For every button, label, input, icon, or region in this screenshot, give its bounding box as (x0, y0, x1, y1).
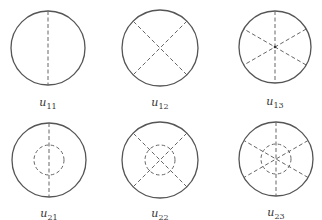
nodal-diameter (244, 141, 308, 178)
nodal-diameter (133, 133, 187, 187)
mode-label-u13: u13 (266, 95, 283, 110)
label-subscript: 13 (273, 101, 283, 110)
mode-label-u21: u21 (40, 207, 57, 220)
mode-u13 (239, 11, 311, 83)
mode-u11 (11, 11, 85, 85)
label-subscript: 23 (274, 212, 284, 220)
mode-u22 (122, 122, 198, 198)
center-dot (274, 46, 277, 49)
mode-label-u23: u23 (267, 206, 284, 220)
membrane-boundary (12, 123, 86, 197)
mode-label-u11: u11 (39, 96, 56, 111)
mode-u12 (122, 10, 198, 86)
label-subscript: 12 (158, 102, 168, 111)
nodal-diameter (133, 133, 187, 187)
mode-u23 (239, 122, 313, 196)
membrane-boundary (11, 11, 85, 85)
mode-u21 (12, 123, 86, 197)
nodal-diameter (133, 21, 187, 75)
membrane-boundary (239, 122, 313, 196)
label-subscript: 21 (47, 213, 57, 220)
label-subscript: 11 (46, 102, 56, 111)
mode-label-u22: u22 (151, 207, 168, 220)
label-subscript: 22 (158, 213, 168, 220)
nodal-diameter (244, 141, 308, 178)
mode-label-u12: u12 (151, 96, 168, 111)
nodal-diameter (133, 21, 187, 75)
